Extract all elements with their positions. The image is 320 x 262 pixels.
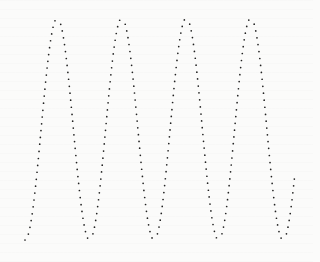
data-point xyxy=(96,213,98,215)
data-point xyxy=(35,185,37,187)
data-point xyxy=(34,192,36,194)
data-point xyxy=(228,185,230,187)
data-point xyxy=(42,109,44,111)
data-point xyxy=(110,74,112,76)
data-point xyxy=(68,78,70,80)
data-point xyxy=(47,60,49,62)
data-point xyxy=(271,176,273,178)
data-point xyxy=(272,190,274,192)
data-point xyxy=(142,176,144,178)
data-point xyxy=(69,92,71,94)
data-point xyxy=(138,141,140,143)
data-point xyxy=(75,155,77,157)
data-point xyxy=(107,109,109,111)
data-point xyxy=(231,157,233,159)
data-point xyxy=(199,99,201,101)
data-point xyxy=(129,51,131,53)
data-point xyxy=(36,171,38,173)
data-point xyxy=(275,211,277,213)
data-point xyxy=(63,37,65,39)
data-point xyxy=(132,71,134,73)
data-point xyxy=(225,213,227,215)
data-point xyxy=(162,199,164,201)
data-point xyxy=(112,53,114,55)
data-point xyxy=(131,64,133,66)
data-point xyxy=(124,23,126,25)
data-point xyxy=(80,204,82,206)
data-point xyxy=(136,120,138,122)
data-point xyxy=(229,178,231,180)
data-point xyxy=(76,162,78,164)
data-point xyxy=(241,53,243,55)
data-point xyxy=(263,99,265,101)
data-point xyxy=(277,224,279,226)
data-point xyxy=(132,78,134,80)
data-point xyxy=(74,141,76,143)
data-point xyxy=(199,106,201,108)
data-point xyxy=(255,30,257,32)
data-point xyxy=(51,33,53,35)
data-point xyxy=(180,32,182,34)
data-point xyxy=(269,162,271,164)
data-point xyxy=(200,113,202,115)
data-point xyxy=(112,60,114,62)
data-point xyxy=(237,95,239,97)
data-point xyxy=(66,65,68,67)
data-point xyxy=(35,178,37,180)
data-point xyxy=(95,220,97,222)
data-point xyxy=(31,213,33,215)
data-point xyxy=(146,210,148,212)
data-point xyxy=(192,37,194,39)
data-point xyxy=(288,220,290,222)
data-point xyxy=(77,176,79,178)
data-point xyxy=(139,147,141,149)
data-point xyxy=(265,114,267,116)
data-point xyxy=(209,203,211,205)
data-point xyxy=(134,99,136,101)
data-point xyxy=(43,95,45,97)
data-point xyxy=(72,120,74,122)
data-point xyxy=(160,213,162,215)
data-point xyxy=(216,237,218,239)
data-point xyxy=(207,182,209,184)
data-point xyxy=(52,26,54,28)
data-point xyxy=(221,233,223,235)
data-point xyxy=(267,134,269,136)
data-point xyxy=(194,57,196,59)
data-point xyxy=(241,60,243,62)
data-point xyxy=(193,44,195,46)
data-point xyxy=(76,169,78,171)
data-point xyxy=(234,129,236,131)
data-point xyxy=(261,78,263,80)
data-point xyxy=(161,206,163,208)
data-point xyxy=(68,85,70,87)
data-point xyxy=(163,192,165,194)
data-point xyxy=(224,219,226,221)
data-point xyxy=(293,178,295,180)
data-point xyxy=(293,185,295,187)
data-point xyxy=(171,109,173,111)
data-point xyxy=(65,51,67,53)
data-point xyxy=(72,127,74,129)
data-point xyxy=(24,239,26,241)
data-point xyxy=(168,143,170,145)
data-point xyxy=(54,20,56,22)
data-point xyxy=(175,67,177,69)
data-point xyxy=(205,161,207,163)
data-point xyxy=(202,134,204,136)
data-point xyxy=(107,102,109,104)
data-point xyxy=(117,26,119,28)
data-point xyxy=(165,171,167,173)
data-point xyxy=(205,168,207,170)
data-point xyxy=(100,178,102,180)
data-point xyxy=(230,171,232,173)
data-point xyxy=(214,230,216,232)
data-point xyxy=(70,99,72,101)
data-point xyxy=(37,165,39,167)
data-point xyxy=(87,237,89,239)
data-point xyxy=(159,219,161,221)
data-point xyxy=(203,140,205,142)
data-point xyxy=(92,233,94,235)
data-point xyxy=(137,127,139,129)
data-point xyxy=(45,81,47,83)
